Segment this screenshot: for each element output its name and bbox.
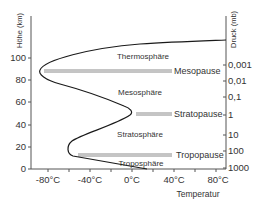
tropopause-line xyxy=(78,154,172,156)
atmosphere-chart: 0 20 40 60 80 100 Höhe (km) -80°C -40°C … xyxy=(0,0,257,215)
svg-text:0: 0 xyxy=(21,163,26,174)
svg-text:0,1: 0,1 xyxy=(228,91,241,102)
label-mesosphere: Mesosphäre xyxy=(118,88,163,97)
svg-text:-80°C: -80°C xyxy=(36,174,61,185)
svg-text:1000: 1000 xyxy=(228,162,249,173)
y2-axis-title: Druck (mb) xyxy=(229,10,238,48)
y-axis-title: Höhe (km) xyxy=(15,12,24,48)
svg-text:0,001: 0,001 xyxy=(228,59,252,70)
y-tick-labels-left: 0 20 40 60 80 100 xyxy=(10,52,26,174)
y-tick-labels-right: 0,001 0,01 0,1 1 10 100 1000 xyxy=(228,59,252,173)
svg-text:100: 100 xyxy=(10,52,26,63)
label-troposphere: Troposphäre xyxy=(118,159,164,168)
svg-text:40°C: 40°C xyxy=(163,174,184,185)
x-axis-title: Temperatur xyxy=(177,189,220,199)
x-tick-labels: -80°C -40°C 0°C 40°C 80°C xyxy=(36,174,229,185)
svg-text:1: 1 xyxy=(228,109,233,120)
mesopause-line xyxy=(44,70,172,72)
svg-text:10: 10 xyxy=(228,129,239,140)
svg-text:0,01: 0,01 xyxy=(228,75,247,86)
label-thermosphere: Thermosphäre xyxy=(117,52,170,61)
label-tropopause: Tropopause xyxy=(176,150,224,160)
svg-text:60: 60 xyxy=(15,96,26,107)
svg-text:80°C: 80°C xyxy=(207,174,228,185)
label-stratosphere: Stratosphäre xyxy=(117,130,163,139)
svg-text:100: 100 xyxy=(228,145,244,156)
svg-text:80: 80 xyxy=(15,74,26,85)
label-stratopause: Stratopause xyxy=(174,109,223,119)
svg-text:0°C: 0°C xyxy=(124,174,140,185)
svg-text:-40°C: -40°C xyxy=(78,174,103,185)
svg-text:20: 20 xyxy=(15,141,26,152)
label-mesopause: Mesopause xyxy=(174,66,221,76)
svg-text:40: 40 xyxy=(15,119,26,130)
stratopause-line xyxy=(136,113,172,115)
